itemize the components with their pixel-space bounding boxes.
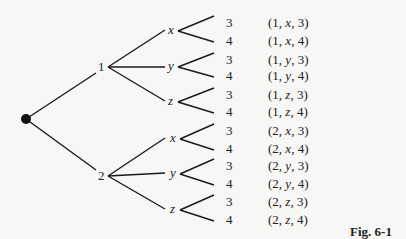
edge-level2-to-leaf (178, 16, 214, 31)
edge-level2-to-leaf (178, 31, 214, 42)
figure-caption: Fig. 6-1 (350, 224, 392, 239)
leaf-node: 3 (226, 88, 233, 101)
leaf-node: 4 (226, 69, 233, 82)
edge-root-to-2 (26, 119, 96, 170)
edge-level2-to-leaf (178, 88, 214, 102)
leaf-node: 3 (226, 124, 233, 137)
edge-level1-to-level2 (108, 176, 165, 209)
node-level2: z (168, 94, 173, 107)
edge-level2-to-leaf (180, 174, 214, 185)
outcome-tuple: (1, y, 4) (268, 69, 308, 82)
node-level2: x (168, 23, 174, 36)
outcome-tuple: (1, y, 3) (268, 53, 308, 66)
leaf-node: 4 (226, 34, 233, 47)
edge-root-to-1 (26, 73, 96, 119)
outcome-tuple: (1, x, 3) (268, 16, 308, 29)
edge-level2-to-leaf (180, 210, 214, 221)
leaf-node: 3 (226, 16, 233, 29)
outcome-tuple: (2, x, 3) (268, 124, 308, 137)
edge-level2-to-leaf (178, 102, 214, 113)
edge-level1-to-level2 (108, 67, 165, 101)
leaf-node: 4 (226, 105, 233, 118)
outcome-tuple: (2, y, 4) (268, 177, 308, 190)
outcome-tuple: (2, x, 4) (268, 142, 308, 155)
edge-level1-to-level2 (108, 138, 165, 176)
leaf-node: 3 (226, 53, 233, 66)
node-level2: y (170, 166, 176, 179)
node-level1: 2 (98, 169, 105, 182)
node-level2: x (170, 131, 176, 144)
edge-level2-to-leaf (178, 67, 214, 77)
tree-edges (0, 0, 406, 239)
leaf-node: 4 (226, 213, 233, 226)
leaf-node: 3 (226, 195, 233, 208)
leaf-node: 4 (226, 177, 233, 190)
node-level2: y (168, 59, 174, 72)
edge-level1-to-level2 (108, 173, 165, 176)
node-level1: 1 (98, 60, 105, 73)
edge-level2-to-leaf (180, 139, 214, 150)
outcome-tuple: (1, z, 4) (268, 105, 308, 118)
edge-level2-to-leaf (180, 159, 214, 174)
outcome-tuple: (1, z, 3) (268, 88, 308, 101)
outcome-tuple: (2, z, 4) (268, 213, 308, 226)
edge-level2-to-leaf (180, 195, 214, 210)
leaf-node: 4 (226, 142, 233, 155)
edge-level2-to-leaf (178, 53, 214, 67)
outcome-tuple: (2, z, 3) (268, 195, 308, 208)
node-level2: z (170, 202, 175, 215)
tree-diagram: 12xyzxyz3(1, x, 3)4(1, x, 4)3(1, y, 3)4(… (0, 0, 406, 239)
outcome-tuple: (2, y, 3) (268, 159, 308, 172)
edge-level1-to-level2 (108, 30, 165, 67)
leaf-node: 3 (226, 159, 233, 172)
root-node (21, 114, 31, 124)
outcome-tuple: (1, x, 4) (268, 34, 308, 47)
edge-level2-to-leaf (180, 124, 214, 139)
